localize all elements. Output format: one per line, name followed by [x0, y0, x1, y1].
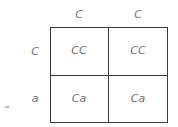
- column-header-2: C: [131, 8, 145, 21]
- cell-r2-c1: Ca: [50, 92, 108, 105]
- corner-mark: ≈: [4, 103, 10, 111]
- row-header-1: C: [28, 45, 42, 58]
- cell-r1-c2: CC: [109, 44, 167, 57]
- row-header-2: a: [28, 92, 42, 105]
- cell-r2-c2: Ca: [109, 92, 167, 105]
- grid-divider-horizontal: [50, 75, 168, 76]
- column-header-1: C: [72, 8, 86, 21]
- cell-r1-c1: CC: [50, 44, 108, 57]
